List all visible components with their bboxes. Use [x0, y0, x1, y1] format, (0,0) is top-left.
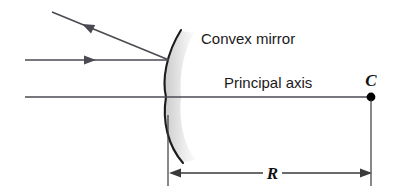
incident-ray-arrowhead [84, 55, 96, 64]
radius-label: R [266, 164, 278, 183]
radius-arrowhead-left [169, 168, 181, 177]
reflected-ray-arrowhead [82, 24, 95, 34]
center-of-curvature-label: C [365, 71, 377, 90]
radius-arrowhead-right [360, 168, 372, 177]
incident-ray-group [25, 55, 169, 64]
optics-diagram-svg: Convex mirror Principal axis C R [0, 0, 398, 196]
reflected-ray-line [52, 12, 169, 60]
reflected-ray-group [52, 12, 169, 60]
principal-axis-label: Principal axis [224, 74, 312, 91]
convex-mirror-diagram: Convex mirror Principal axis C R [0, 0, 398, 196]
convex-mirror-label: Convex mirror [201, 30, 295, 47]
